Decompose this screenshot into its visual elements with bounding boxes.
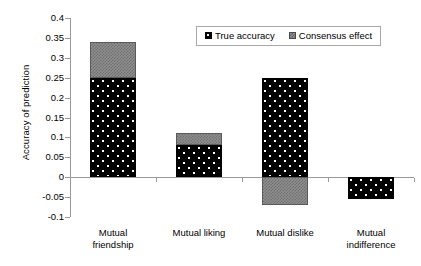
y-axis-tick-mark xyxy=(65,18,70,19)
legend-label-consensus-effect: Consensus effect xyxy=(299,30,372,41)
x-axis-category-label: Mutual friendship xyxy=(70,227,156,251)
bar-group xyxy=(348,18,394,217)
bar-segment-consensus-effect xyxy=(176,133,222,145)
y-axis-tick-label: -0.05 xyxy=(24,192,64,202)
y-axis-tick-mark xyxy=(65,197,70,198)
y-axis-tick-label: -0.1 xyxy=(24,212,64,222)
x-axis-tick-labels: Mutual friendshipMutual likingMutual dis… xyxy=(70,227,414,266)
y-axis-tick-label: 0.25 xyxy=(24,73,64,83)
bar-chart: Accuracy of prediction 0.40.350.30.250.2… xyxy=(0,0,421,266)
bar-segment-true-accuracy xyxy=(90,78,136,178)
bar-segment-true-accuracy xyxy=(262,78,308,178)
y-axis-tick-mark xyxy=(65,118,70,119)
bar-group xyxy=(90,18,136,217)
y-axis-tick-labels: 0.40.350.30.250.20.150.10.050-0.05-0.1 xyxy=(24,0,64,266)
bar-group xyxy=(176,18,222,217)
y-axis-tick-label: 0.1 xyxy=(24,132,64,142)
y-axis-tick-label: 0.35 xyxy=(24,33,64,43)
x-axis-tick-mark xyxy=(156,178,157,182)
x-axis-category-label: Mutual indifference xyxy=(328,227,414,251)
x-axis-tick-mark xyxy=(242,178,243,182)
legend-swatch-true-accuracy-icon xyxy=(205,32,212,39)
bar-segment-true-accuracy xyxy=(348,177,394,199)
x-axis-category-label: Mutual liking xyxy=(156,227,242,239)
y-axis-tick-label: 0.4 xyxy=(24,13,64,23)
legend-entry-true-accuracy: True accuracy xyxy=(205,30,275,41)
bar-segment-consensus-effect xyxy=(262,177,308,205)
y-axis-tick-label: 0.2 xyxy=(24,93,64,103)
y-axis-tick-label: 0 xyxy=(24,172,64,182)
bar-group xyxy=(262,18,308,217)
x-axis-tick-mark xyxy=(414,178,415,182)
y-axis-tick-mark xyxy=(65,98,70,99)
x-axis-category-label: Mutual dislike xyxy=(242,227,328,239)
y-axis-tick-label: 0.3 xyxy=(24,53,64,63)
chart-legend: True accuracy Consensus effect xyxy=(196,26,381,46)
legend-label-true-accuracy: True accuracy xyxy=(215,30,275,41)
y-axis-tick-label: 0.05 xyxy=(24,152,64,162)
bar-segment-true-accuracy xyxy=(176,145,222,177)
legend-entry-consensus-effect: Consensus effect xyxy=(289,30,372,41)
y-axis-tick-mark xyxy=(65,38,70,39)
plot-area xyxy=(70,18,414,217)
y-axis-tick-mark xyxy=(65,217,70,218)
y-axis-tick-mark xyxy=(65,58,70,59)
y-axis-tick-mark xyxy=(65,177,70,178)
y-axis-tick-label: 0.15 xyxy=(24,113,64,123)
bar-segment-consensus-effect xyxy=(90,42,136,78)
y-axis-tick-mark xyxy=(65,137,70,138)
y-axis-tick-mark xyxy=(65,157,70,158)
legend-swatch-consensus-effect-icon xyxy=(289,32,296,39)
y-axis-tick-mark xyxy=(65,78,70,79)
x-axis-tick-mark xyxy=(328,178,329,182)
